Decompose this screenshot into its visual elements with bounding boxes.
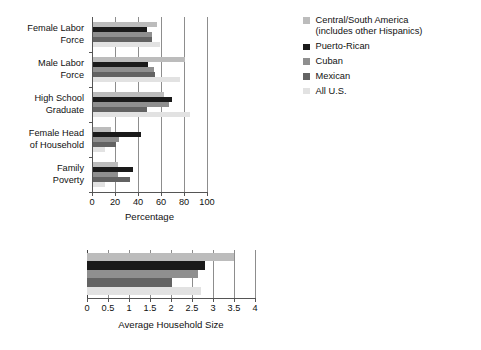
x-tick-label-80: 80 [179,197,189,207]
percentage-chart-plot-area [92,17,208,192]
household-size-x-axis: 00.511.522.533.54 [87,298,255,299]
legend-item-puerto_rican: Puerto-Rican [303,41,481,52]
bar [93,77,180,82]
legend-item-cuban: Cuban [303,56,481,67]
x-tick-label-0.5: 0.5 [102,303,115,313]
bar [93,112,190,117]
x-tick-100 [207,192,208,196]
legend-swatch-icon-mexican [303,73,310,80]
bar-group-3 [93,122,208,157]
bar [87,270,198,278]
percentage-x-axis: 020406080100 [92,192,207,193]
category-axis-labels: Female Labor ForceMale Labor ForceHigh S… [0,17,88,192]
x-tick-0.5 [108,298,109,302]
x-tick-label-1: 1 [126,303,131,313]
legend-swatch-icon-cuban [303,58,310,65]
legend-swatch-icon-central_south_america [303,17,310,24]
bar [93,42,160,47]
category-label-0: Female Labor Force [0,23,84,45]
x-tick-80 [184,192,185,196]
category-label-3: Female Head of Household [0,128,84,150]
legend-label-puerto_rican: Puerto-Rican [316,41,370,52]
x-tick-label-3.5: 3.5 [228,303,241,313]
x-tick-label-4: 4 [252,303,257,313]
legend-item-all_us: All U.S. [303,86,481,97]
bar-group-0 [93,17,208,52]
gridline-3.5 [234,250,235,298]
bar [87,261,205,269]
x-tick-label-2.5: 2.5 [186,303,199,313]
x-tick-20 [115,192,116,196]
x-tick-label-3: 3 [210,303,215,313]
bar-group-1 [93,52,208,87]
chart-legend: Central/South America (includes other Hi… [303,15,481,100]
bar [93,182,105,187]
household-size-axis-title: Average Household Size [87,319,255,330]
x-tick-2 [171,298,172,302]
x-tick-0 [87,298,88,302]
percentage-axis-title: Percentage [92,211,207,222]
bar-group-4 [93,157,208,192]
bar [87,253,234,261]
x-tick-label-1.5: 1.5 [144,303,157,313]
x-tick-3 [213,298,214,302]
legend-label-all_us: All U.S. [316,86,347,97]
legend-swatch-icon-all_us [303,88,310,95]
legend-item-central_south_america: Central/South America (includes other Hi… [303,15,481,38]
x-tick-label-0: 0 [89,197,94,207]
legend-label-mexican: Mexican [316,71,351,82]
bar [93,147,105,152]
household-size-bar-chart: 00.511.522.533.54 Average Household Size [0,243,300,350]
x-tick-label-20: 20 [110,197,120,207]
percentage-bar-chart: Female Labor ForceMale Labor ForceHigh S… [0,0,300,232]
x-tick-3.5 [234,298,235,302]
x-tick-label-2: 2 [168,303,173,313]
bar [87,287,201,295]
x-tick-label-0: 0 [84,303,89,313]
x-tick-60 [161,192,162,196]
gridline-4 [255,250,256,298]
category-label-1: Male Labor Force [0,58,84,80]
x-tick-40 [138,192,139,196]
bar [87,278,172,286]
legend-swatch-icon-puerto_rican [303,44,310,51]
x-tick-label-40: 40 [133,197,143,207]
bar-group-2 [93,87,208,122]
legend-item-mexican: Mexican [303,71,481,82]
x-tick-label-60: 60 [156,197,166,207]
category-label-2: High School Graduate [0,93,84,115]
category-label-4: Family Poverty [0,163,84,185]
x-tick-0 [92,192,93,196]
legend-label-cuban: Cuban [316,56,343,67]
x-tick-1 [129,298,130,302]
x-tick-4 [255,298,256,302]
household-size-plot-area [87,250,255,298]
x-tick-label-100: 100 [199,197,214,207]
x-tick-2.5 [192,298,193,302]
legend-label-central_south_america: Central/South America (includes other Hi… [316,15,423,38]
x-tick-1.5 [150,298,151,302]
